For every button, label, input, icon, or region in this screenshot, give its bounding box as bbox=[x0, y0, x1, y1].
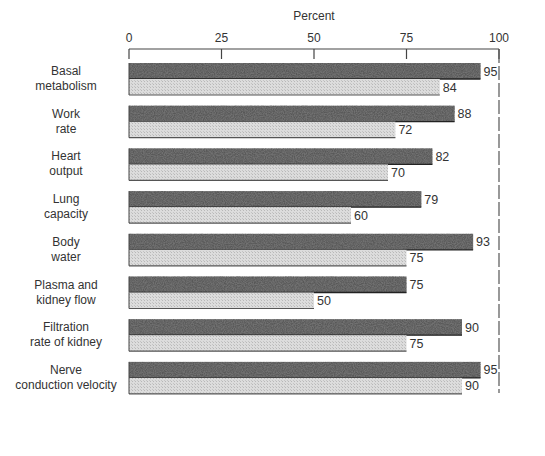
bar-light bbox=[129, 335, 407, 351]
bar-light bbox=[129, 293, 314, 309]
value-label: 72 bbox=[398, 123, 412, 137]
x-axis-label: Percent bbox=[293, 9, 335, 23]
x-tick-label: 75 bbox=[400, 31, 414, 45]
bar-dark bbox=[129, 362, 481, 378]
x-tick-label: 100 bbox=[489, 31, 509, 45]
value-label: 88 bbox=[458, 107, 472, 121]
category-label: Plasma andkidney flow bbox=[34, 278, 97, 307]
bar-light bbox=[129, 79, 440, 95]
value-label: 50 bbox=[317, 294, 331, 308]
category-label: Bodywater bbox=[50, 235, 80, 264]
bar-light bbox=[129, 122, 395, 138]
bar-dark bbox=[129, 106, 455, 122]
bar-light bbox=[129, 250, 407, 266]
value-label: 75 bbox=[410, 337, 424, 351]
bar-light bbox=[129, 378, 462, 394]
category-label: Workrate bbox=[52, 107, 81, 136]
bar-dark bbox=[129, 63, 481, 79]
chart: Percent 0255075100 BasalmetabolismWorkra… bbox=[0, 0, 545, 456]
bar-light bbox=[129, 207, 351, 223]
value-label: 82 bbox=[435, 150, 449, 164]
value-label: 60 bbox=[354, 209, 368, 223]
bars: 95848872827079609375755090759590 bbox=[129, 63, 497, 394]
category-label: Nerveconduction velocity bbox=[15, 363, 116, 392]
bar-dark bbox=[129, 234, 473, 250]
x-tick-label: 0 bbox=[126, 31, 133, 45]
value-label: 90 bbox=[465, 379, 479, 393]
value-label: 95 bbox=[484, 65, 498, 79]
value-label: 75 bbox=[410, 278, 424, 292]
category-label: Heartoutput bbox=[49, 149, 83, 178]
value-label: 95 bbox=[484, 363, 498, 377]
bar-dark bbox=[129, 277, 407, 293]
value-label: 75 bbox=[410, 251, 424, 265]
x-axis: 0255075100 bbox=[126, 31, 510, 59]
bar-dark bbox=[129, 191, 421, 207]
category-label: Lungcapacity bbox=[44, 192, 88, 221]
value-label: 90 bbox=[465, 321, 479, 335]
bar-dark bbox=[129, 319, 462, 335]
value-label: 84 bbox=[443, 81, 457, 95]
category-label: Basalmetabolism bbox=[35, 64, 96, 93]
x-tick-label: 50 bbox=[307, 31, 321, 45]
value-label: 93 bbox=[476, 235, 490, 249]
x-tick-label: 25 bbox=[215, 31, 229, 45]
value-label: 70 bbox=[391, 166, 405, 180]
value-label: 79 bbox=[424, 193, 438, 207]
category-labels: BasalmetabolismWorkrateHeartoutputLungca… bbox=[15, 64, 116, 392]
bar-light bbox=[129, 164, 388, 180]
category-label: Filtrationrate of kidney bbox=[30, 320, 102, 349]
bar-dark bbox=[129, 148, 432, 164]
